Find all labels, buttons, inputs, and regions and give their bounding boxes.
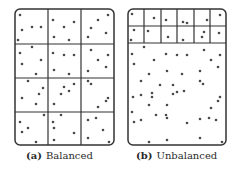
data-point [166,104,169,107]
data-point [143,46,146,49]
data-point [53,103,56,106]
data-point [131,13,134,16]
data-point [140,119,143,122]
data-point [199,118,202,121]
data-point [199,70,202,73]
data-point [27,80,30,83]
data-point [73,83,76,86]
data-point [38,93,41,96]
caption-tag-b: (b) [136,150,152,161]
data-point [140,80,143,83]
data-point [153,59,156,62]
data-point [186,22,189,25]
data-point [63,86,66,89]
data-point [151,96,154,99]
data-point [68,39,71,42]
data-point [182,21,185,24]
data-point [202,83,205,86]
data-point [133,63,136,66]
data-point [60,114,63,117]
data-point [90,27,93,30]
data-point [208,117,211,120]
data-point [40,26,43,29]
data-point [17,39,20,42]
data-point [73,132,76,135]
data-point [68,73,71,76]
caption-tag-a: (a) [26,150,42,161]
data-point [107,97,110,100]
data-point [40,59,43,62]
data-point [21,97,24,100]
data-point [183,90,186,93]
data-point [210,59,213,62]
data-point [217,66,220,69]
data-point [182,39,185,42]
data-point [172,93,175,96]
data-point [90,83,93,86]
data-point [19,121,22,124]
data-point [108,141,111,144]
data-point [63,26,66,29]
data-point [199,80,202,83]
data-point [167,36,170,39]
data-point [155,114,158,117]
data-point [166,70,169,73]
data-point [203,31,206,34]
data-point [21,63,24,66]
data-point [132,96,135,99]
data-point [186,122,189,125]
data-point [97,106,100,109]
data-point [147,30,150,33]
data-point [219,54,222,57]
partition-figure: (a)Balanced (b)Unbalanced [0,0,239,173]
data-point [151,92,154,95]
data-point [87,137,90,140]
data-point [199,137,202,140]
data-point [21,29,24,32]
data-point [221,141,224,144]
data-point [52,121,55,124]
data-point [53,69,56,72]
data-point [31,26,34,29]
data-point [186,54,189,57]
data-point [107,54,110,57]
data-point [53,36,56,39]
data-point [53,139,56,142]
data-point [60,93,63,96]
data-point [105,100,108,103]
data-point [105,66,108,69]
data-point [35,141,38,144]
data-point [90,49,93,52]
data-point [43,114,46,117]
data-point [31,46,34,49]
data-point [19,52,22,55]
data-point [165,114,168,117]
data-point [131,53,134,56]
data-point [140,94,143,97]
data-point [105,32,108,35]
data-point [217,100,220,103]
data-point [153,17,156,20]
data-point [87,80,90,83]
data-point [133,29,136,32]
data-point [215,119,218,122]
balanced-panel [15,9,114,145]
data-point [166,117,169,120]
data-point [159,84,162,87]
data-point [53,127,56,130]
data-point [73,54,76,57]
data-point [148,104,151,107]
caption-balanced: (a)Balanced [26,148,93,164]
caption-unbalanced: (b)Unbalanced [136,148,217,164]
data-point [165,53,168,56]
data-point [19,14,22,17]
data-point [35,103,38,106]
data-point [68,90,71,93]
data-point [172,84,175,87]
data-point [130,39,133,42]
data-point [102,129,105,132]
data-point [35,73,38,76]
data-point [97,19,100,22]
data-point [148,141,151,144]
data-point [87,70,90,73]
